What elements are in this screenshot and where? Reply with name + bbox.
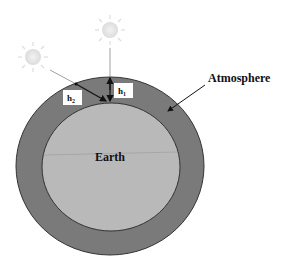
atmosphere-path-diagram: h1 h2 Atmosphere Earth [0, 0, 283, 262]
atmosphere-label: Atmosphere [208, 71, 271, 85]
h2-label-subscript: 2 [72, 98, 75, 104]
oblique-ray [50, 70, 76, 84]
sun-icon [95, 15, 125, 45]
earth-body [42, 103, 180, 231]
sun-icon [18, 42, 48, 72]
earth-label: Earth [95, 150, 125, 164]
h1-label-subscript: 1 [123, 91, 126, 97]
atmosphere-pointer-arrow [168, 85, 205, 111]
